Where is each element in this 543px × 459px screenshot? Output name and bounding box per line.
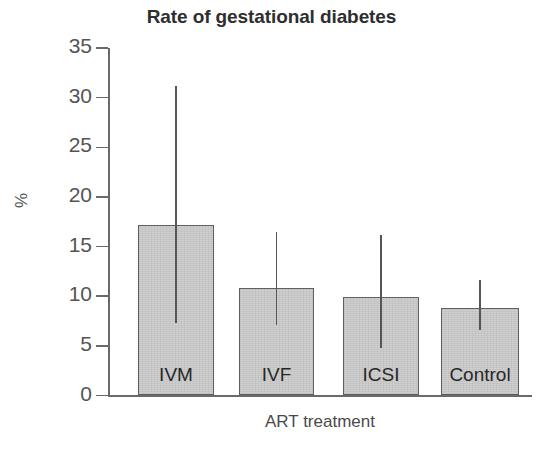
chart-figure: Rate of gestational diabetes 05101520253… [0, 0, 543, 459]
y-axis-tick [96, 246, 108, 248]
y-axis-tick [96, 196, 108, 198]
y-axis-tick [96, 395, 108, 397]
y-axis-line [108, 48, 110, 396]
x-axis-title: ART treatment [108, 412, 532, 432]
error-bar-control [479, 280, 481, 330]
y-axis-tick-label: 10 [46, 282, 92, 306]
bar-label: ICSI [344, 364, 418, 386]
y-axis-tick [96, 345, 108, 347]
error-bar-icsi [380, 235, 382, 348]
chart-title: Rate of gestational diabetes [0, 6, 543, 28]
y-axis-tick [96, 97, 108, 99]
y-axis-tick-label: 35 [46, 34, 92, 58]
caption-fragment [60, 446, 480, 459]
y-axis-tick-label: 5 [46, 332, 92, 356]
bar-label: Control [442, 364, 518, 386]
y-axis-tick-label: 15 [46, 233, 92, 257]
y-axis-tick [96, 147, 108, 149]
error-bar-ivf [276, 232, 278, 325]
y-axis-tick [96, 47, 108, 49]
y-axis-tick-label: 30 [46, 84, 92, 108]
y-axis-tick-label: 20 [46, 183, 92, 207]
y-axis-tick-label: 0 [46, 382, 92, 406]
y-axis-tick [96, 295, 108, 297]
error-bar-ivm [175, 86, 177, 323]
y-axis-tick-label: 25 [46, 133, 92, 157]
y-axis-title: % [12, 193, 32, 208]
bar-label: IVM [139, 364, 213, 386]
bar-label: IVF [240, 364, 313, 386]
